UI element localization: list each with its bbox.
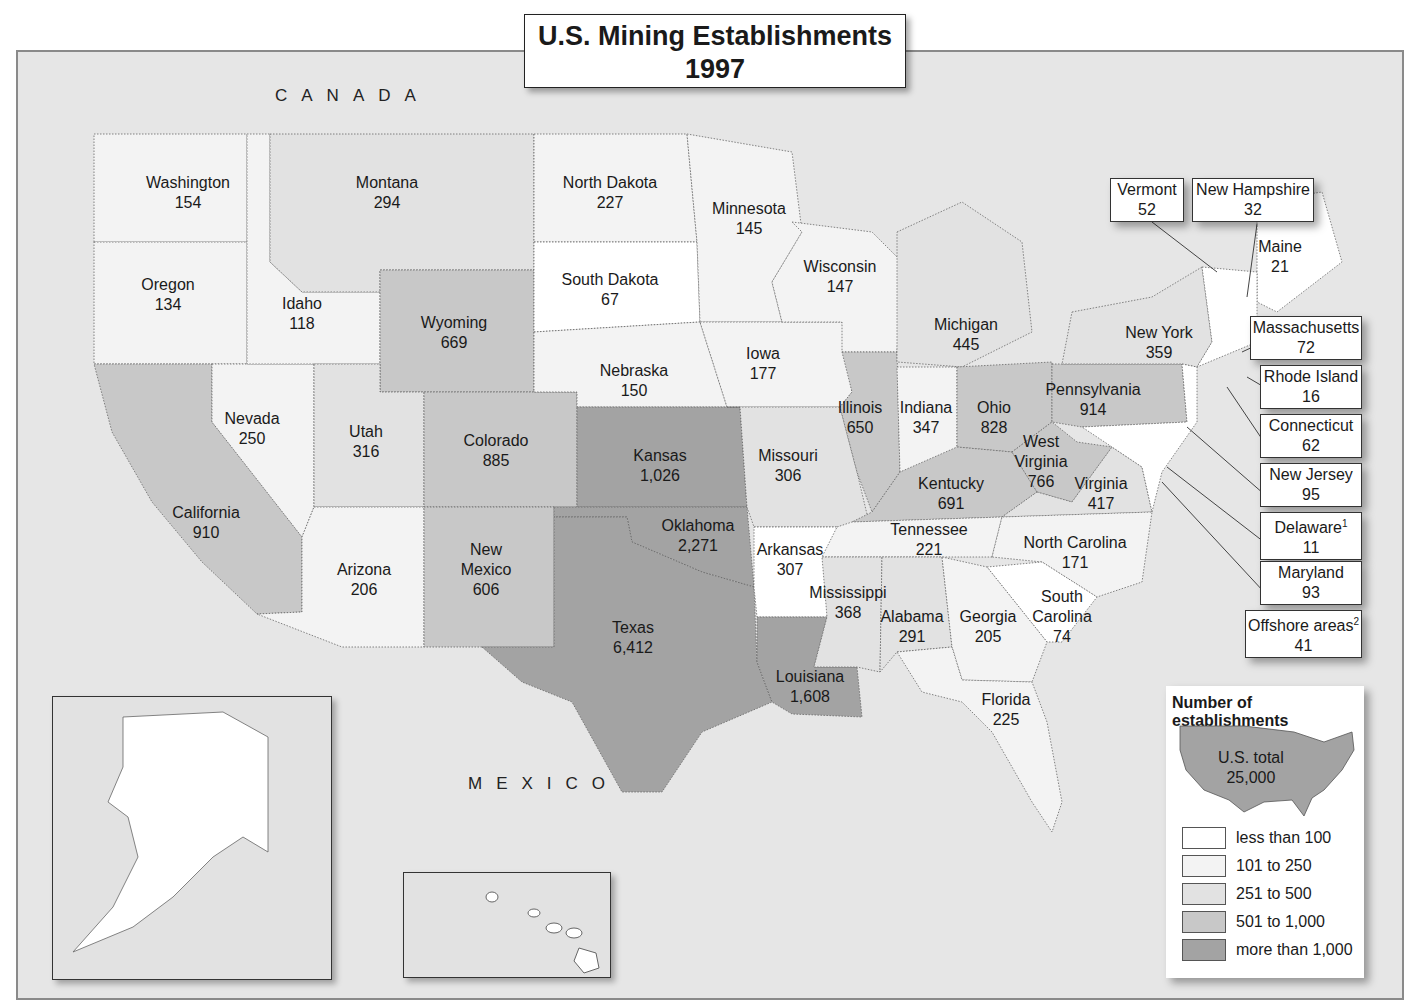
state-label-tennessee: Tennessee221 <box>890 520 967 560</box>
state-montana <box>270 134 534 292</box>
state-label-south-dakota: South Dakota67 <box>562 270 659 310</box>
state-label-michigan: Michigan445 <box>934 315 998 355</box>
callout-rhode-island: Rhode Island16 <box>1260 365 1362 409</box>
state-label-kansas: Kansas1,026 <box>633 446 686 486</box>
callout-massachusetts: Massachusetts72 <box>1250 316 1362 360</box>
legend-item-gt1000: more than 1,000 <box>1182 938 1353 962</box>
legend-swatch <box>1182 911 1226 933</box>
callout-connecticut: Connecticut62 <box>1260 414 1362 458</box>
callout-new-jersey: New Jersey95 <box>1260 463 1362 507</box>
state-label-washington: Washington154 <box>146 173 230 213</box>
state-label-florida: Florida225 <box>982 690 1031 730</box>
state-label-nebraska: Nebraska150 <box>600 361 668 401</box>
state-label-pennsylvania: Pennsylvania914 <box>1045 380 1140 420</box>
alaska-inset <box>52 696 332 980</box>
legend-item-lt100: less than 100 <box>1182 826 1331 850</box>
state-label-mississippi: Mississippi368 <box>809 583 886 623</box>
legend-item-251-500: 251 to 500 <box>1182 882 1312 906</box>
legend-item-501-1000: 501 to 1,000 <box>1182 910 1325 934</box>
state-label-oregon: Oregon134 <box>141 275 194 315</box>
legend-item-101-250: 101 to 250 <box>1182 854 1312 878</box>
state-label-minnesota: Minnesota145 <box>712 199 786 239</box>
state-label-wisconsin: Wisconsin147 <box>804 257 877 297</box>
legend-swatch <box>1182 883 1226 905</box>
state-label-new-mexico: NewMexico606 <box>461 540 512 600</box>
state-label-california: California910 <box>172 503 240 543</box>
state-label-oklahoma: Oklahoma2,271 <box>662 516 735 556</box>
state-label-montana: Montana294 <box>356 173 418 213</box>
state-label-ohio: Ohio828 <box>977 398 1011 438</box>
country-label-canada: CANADA <box>275 86 430 106</box>
state-label-virginia: Virginia417 <box>1074 474 1127 514</box>
state-label-south-carolina: SouthCarolina74 <box>1032 587 1092 647</box>
state-label-kentucky: Kentucky691 <box>918 474 984 514</box>
country-label-mexico: MEXICO <box>468 774 619 794</box>
callout-vermont: Vermont52 <box>1110 178 1184 222</box>
state-label-utah: Utah316 <box>349 422 383 462</box>
state-label-georgia: Georgia205 <box>960 607 1017 647</box>
state-label-north-dakota: North Dakota227 <box>563 173 657 213</box>
state-label-iowa: Iowa177 <box>746 344 780 384</box>
state-label-indiana: Indiana347 <box>900 398 953 438</box>
legend: Number of establishments U.S. total25,00… <box>1166 686 1364 978</box>
alaska-shape <box>53 697 329 977</box>
hawaii-islands <box>404 873 608 975</box>
hawaii-inset <box>403 872 611 978</box>
callout-maryland: Maryland93 <box>1260 561 1362 605</box>
state-label-idaho: Idaho118 <box>282 294 322 334</box>
callout-new-hampshire: New Hampshire32 <box>1192 178 1314 222</box>
state-label-north-carolina: North Carolina171 <box>1023 533 1126 573</box>
title-year: 1997 <box>525 53 905 85</box>
state-label-louisiana: Louisiana1,608 <box>776 667 845 707</box>
legend-swatch <box>1182 827 1226 849</box>
callout-offshore-areas: Offshore areas241 <box>1245 610 1362 658</box>
legend-swatch <box>1182 855 1226 877</box>
state-label-missouri: Missouri306 <box>758 446 818 486</box>
state-label-nevada: Nevada250 <box>224 409 279 449</box>
title-line1: U.S. Mining Establishments <box>525 19 905 53</box>
callout-delaware: Delaware111 <box>1260 512 1362 560</box>
state-label-west-virginia: WestVirginia766 <box>1014 432 1067 492</box>
state-label-arkansas: Arkansas307 <box>757 540 824 580</box>
state-label-alabama: Alabama291 <box>880 607 943 647</box>
map-title: U.S. Mining Establishments 1997 <box>524 14 906 88</box>
state-label-maine: Maine21 <box>1258 237 1302 277</box>
state-label-wyoming: Wyoming669 <box>421 313 488 353</box>
state-label-new-york: New York359 <box>1125 323 1193 363</box>
legend-us-total: U.S. total25,000 <box>1218 748 1284 788</box>
state-label-texas: Texas6,412 <box>612 618 654 658</box>
state-label-illinois: Illinois650 <box>838 398 882 438</box>
state-label-colorado: Colorado885 <box>464 431 529 471</box>
state-label-arizona: Arizona206 <box>337 560 391 600</box>
legend-swatch <box>1182 939 1226 961</box>
